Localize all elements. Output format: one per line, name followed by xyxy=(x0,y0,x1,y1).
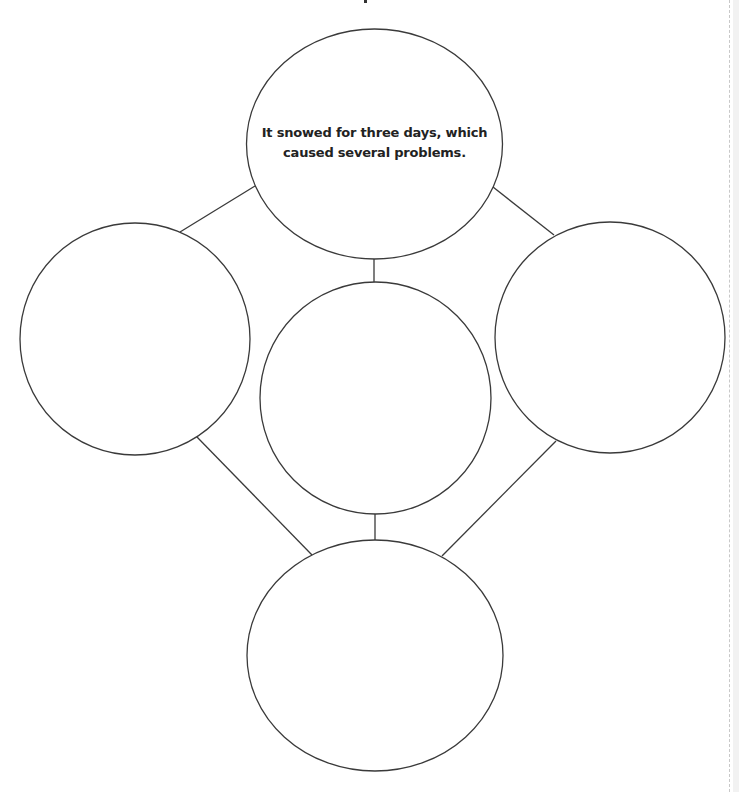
main-idea-text: It snowed for three days, which caused s… xyxy=(246,123,503,163)
connector-top-right xyxy=(493,187,554,235)
cropped-text-remnant xyxy=(364,0,367,3)
main-idea-line-1: It snowed for three days, which xyxy=(246,123,503,143)
bottom-detail-bubble xyxy=(247,540,503,771)
cause-effect-diagram xyxy=(0,0,739,792)
right-detail-bubble xyxy=(495,222,725,453)
center-detail-bubble xyxy=(260,282,491,514)
main-idea-line-2: caused several problems. xyxy=(246,143,503,163)
page-edge-dashed-line xyxy=(729,0,730,792)
page-edge-strip xyxy=(733,0,739,792)
connector-top-left xyxy=(180,186,255,232)
left-detail-bubble xyxy=(20,223,250,455)
